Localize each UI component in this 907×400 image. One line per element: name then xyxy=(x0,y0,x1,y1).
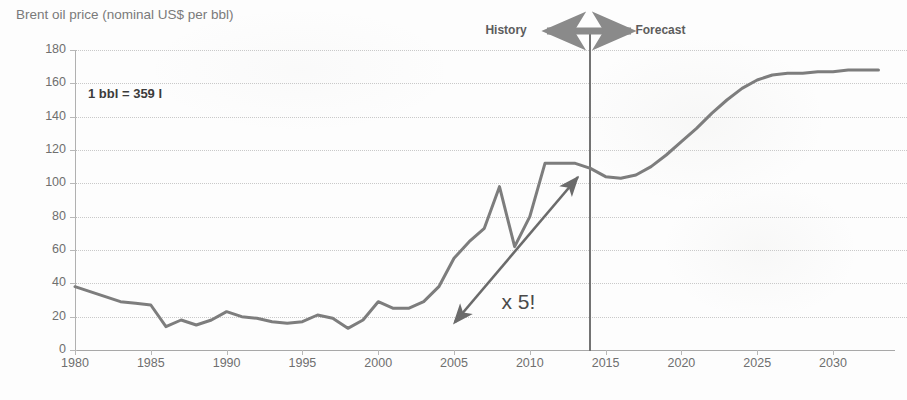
y-tick-label: 40 xyxy=(0,275,66,289)
y-tick-label: 0 xyxy=(0,342,66,356)
y-tick-label: 180 xyxy=(0,42,66,56)
price-line xyxy=(75,70,878,328)
x-tick-label: 2010 xyxy=(516,356,544,370)
y-tick-mark xyxy=(70,83,77,84)
x-tick-mark xyxy=(757,350,758,355)
y-tick-label-text: 80 xyxy=(52,209,66,223)
y-tick-mark xyxy=(70,183,77,184)
y-tick-label-text: 100 xyxy=(45,175,66,189)
x-tick-mark xyxy=(833,350,834,355)
y-tick-label-text: 40 xyxy=(52,275,66,289)
y-tick-label: 80 xyxy=(0,209,66,223)
y-tick-label-text: 160 xyxy=(45,75,66,89)
x-tick-label: 1985 xyxy=(137,356,165,370)
x-tick-mark xyxy=(378,350,379,355)
x-tick-label: 2000 xyxy=(364,356,392,370)
x-tick-label: 1980 xyxy=(61,356,89,370)
y-tick-mark xyxy=(70,150,77,151)
y-tick-label: 160 xyxy=(0,75,66,89)
x-tick-mark xyxy=(454,350,455,355)
x-tick-mark xyxy=(227,350,228,355)
annotation-overlay xyxy=(0,0,907,400)
y-tick-label: 140 xyxy=(0,109,66,123)
y-tick-mark xyxy=(70,317,77,318)
y-tick-mark xyxy=(70,217,77,218)
y-tick-label-text: 20 xyxy=(52,309,66,323)
y-tick-label: 120 xyxy=(0,142,66,156)
y-tick-label: 60 xyxy=(0,242,66,256)
y-tick-mark xyxy=(70,117,77,118)
y-tick-label-text: 180 xyxy=(45,42,66,56)
x-tick-label: 2020 xyxy=(667,356,695,370)
multiplier-callout: x 5! xyxy=(501,290,535,314)
y-tick-mark xyxy=(70,50,77,51)
y-tick-label-text: 0 xyxy=(59,342,66,356)
x-tick-mark xyxy=(151,350,152,355)
y-tick-mark xyxy=(70,283,77,284)
y-tick-label: 100 xyxy=(0,175,66,189)
x-tick-label: 2005 xyxy=(440,356,468,370)
x-tick-mark xyxy=(681,350,682,355)
y-tick-label-text: 120 xyxy=(45,142,66,156)
x-tick-label: 2015 xyxy=(592,356,620,370)
x-tick-label: 2030 xyxy=(819,356,847,370)
x-tick-mark xyxy=(302,350,303,355)
x-tick-label: 2025 xyxy=(743,356,771,370)
x-tick-mark xyxy=(530,350,531,355)
x-tick-label: 1990 xyxy=(213,356,241,370)
x-tick-label: 1995 xyxy=(288,356,316,370)
x-tick-mark xyxy=(75,350,76,355)
y-tick-label: 20 xyxy=(0,309,66,323)
y-tick-label-text: 60 xyxy=(52,242,66,256)
y-tick-mark xyxy=(70,250,77,251)
y-tick-label-text: 140 xyxy=(45,109,66,123)
chart-page: Brent oil price (nominal US$ per bbl) 1 … xyxy=(0,0,907,400)
x-tick-mark xyxy=(606,350,607,355)
